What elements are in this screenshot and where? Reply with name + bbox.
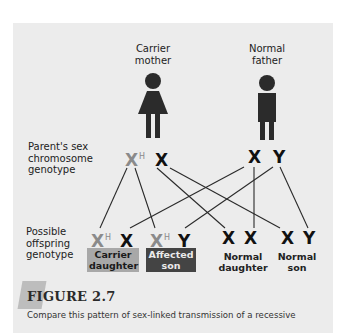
figure-title: FIGURE 2.7 — [27, 289, 116, 304]
carrier-daughter-badge: Carrier daughter — [87, 248, 139, 272]
offspring-genotype-normal-son: X Y — [281, 229, 315, 247]
offspring-genotype-carrier-daughter: XH X — [91, 229, 133, 250]
normal-son-label: Normal son — [277, 251, 317, 273]
offspring-genotype-row-label: Possible offspring genotype — [26, 226, 73, 261]
offspring-genotype-normal-daughter: X X — [222, 229, 257, 247]
figure-caption: Compare this pattern of sex-linked trans… — [27, 310, 296, 320]
row-label-line: genotype — [26, 249, 73, 261]
row-label-line: offspring — [26, 238, 73, 250]
offspring-genotype-affected-son: XH Y — [150, 229, 190, 250]
row-label-line: Possible — [26, 226, 73, 238]
normal-daughter-label: Normal daughter — [218, 251, 268, 273]
affected-son-badge: Affected son — [146, 248, 196, 272]
